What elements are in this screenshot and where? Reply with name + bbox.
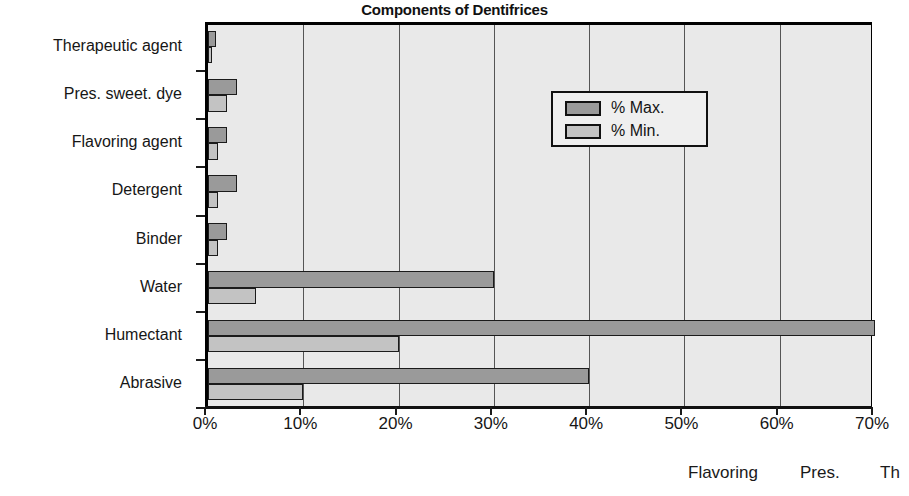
bar-max — [208, 223, 227, 239]
bar-min — [208, 384, 303, 400]
bar-max — [208, 320, 875, 336]
y-axis-category-label: Binder — [136, 230, 182, 248]
chart-title: Components of Dentifrices — [0, 1, 909, 18]
legend-item-max: % Max. — [565, 98, 664, 118]
y-axis-category-label: Pres. sweet. dye — [64, 85, 182, 103]
y-axis-category-label: Water — [140, 278, 182, 296]
bar-series-layer — [208, 25, 871, 406]
bar-max — [208, 31, 216, 47]
bar-max — [208, 271, 494, 287]
bar-min — [208, 336, 399, 352]
bar-group — [208, 266, 871, 314]
bar-min — [208, 95, 227, 111]
bar-max — [208, 79, 237, 95]
bar-min — [208, 192, 218, 208]
x-axis-tick-label: 70% — [855, 414, 889, 434]
y-axis-label-group: Therapeutic agentPres. sweet. dyeFlavori… — [0, 22, 190, 407]
legend-swatch-min — [565, 124, 601, 139]
caption-fragment: Pres. — [800, 463, 840, 483]
y-axis-category-label: Detergent — [112, 181, 182, 199]
x-axis-tick-label: 60% — [760, 414, 794, 434]
y-axis-category-label: Therapeutic agent — [53, 37, 182, 55]
bar-group — [208, 73, 871, 121]
x-axis-tick-label: 20% — [379, 414, 413, 434]
bar-group — [208, 121, 871, 169]
bar-max — [208, 368, 589, 384]
caption-fragment: Flavoring — [688, 463, 758, 483]
legend-label-min: % Min. — [611, 122, 660, 140]
legend-swatch-max — [565, 101, 601, 116]
bar-min — [208, 288, 256, 304]
bar-group — [208, 314, 871, 362]
legend-label-max: % Max. — [611, 99, 664, 117]
chart-legend: % Max. % Min. — [551, 91, 708, 147]
x-axis-tick-label: 10% — [283, 414, 317, 434]
x-axis-tick-label: 40% — [569, 414, 603, 434]
x-axis-tick-label: 30% — [474, 414, 508, 434]
bottom-caption-fragments: FlavoringPres.Th — [0, 463, 909, 496]
x-axis-tick-label: 50% — [664, 414, 698, 434]
x-axis-label-group: 0%10%20%30%40%50%60%70% — [205, 414, 872, 440]
bar-min — [208, 240, 218, 256]
bar-min — [208, 143, 218, 159]
bar-group — [208, 218, 871, 266]
bar-group — [208, 362, 871, 410]
x-axis-tick-label: 0% — [193, 414, 218, 434]
y-axis-category-label: Humectant — [105, 326, 182, 344]
y-axis-category-label: Abrasive — [120, 374, 182, 392]
legend-item-min: % Min. — [565, 121, 660, 141]
bar-max — [208, 127, 227, 143]
caption-fragment: Th — [880, 463, 900, 483]
bar-group — [208, 25, 871, 73]
bar-group — [208, 169, 871, 217]
bar-max — [208, 175, 237, 191]
y-axis-category-label: Flavoring agent — [72, 133, 182, 151]
bar-min — [208, 47, 212, 63]
plot-area — [205, 22, 872, 407]
